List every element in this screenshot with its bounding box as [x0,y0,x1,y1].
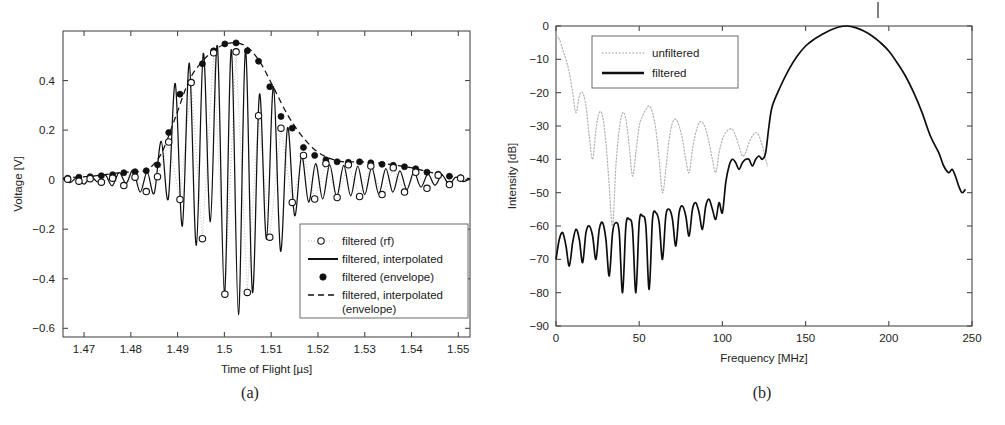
marker-rf-point [210,50,216,56]
marker-envelope-point [98,173,104,179]
legend-a-label-1: filtered, interpolated [342,253,443,265]
marker-rf-point [390,165,396,171]
panel-a-svg: 1.471.481.491.51.511.521.531.541.550.40.… [0,0,500,425]
x-tick-label: 1.55 [447,343,469,355]
panel-b-caption: (b) [753,384,772,402]
marker-envelope-point [199,61,205,67]
marker-rf-point [255,113,261,119]
marker-rf-point [278,125,284,131]
marker-envelope-point [267,84,273,90]
marker-envelope-point [177,91,183,97]
marker-envelope-point [334,159,340,165]
legend-a-label-2: filtered (envelope) [342,271,434,283]
panel-b-plot-area: 0501001502002500−10−20−30−40−50−60−70−80… [506,20,982,402]
y-tick-label: −0.4 [32,273,55,285]
legend-a-label-3: filtered, interpolated [342,289,443,301]
marker-envelope-point [379,161,385,167]
marker-envelope-point [278,113,284,119]
panel-b-xlabel: Frequency [MHz] [720,352,808,364]
marker-rf-point [76,178,82,184]
marker-envelope-point [424,169,430,175]
marker-envelope-point [121,170,127,176]
marker-envelope-point [357,159,363,165]
marker-rf-point [424,185,430,191]
panel-a-plot-area: 1.471.481.491.51.511.521.531.541.550.40.… [12,31,470,402]
marker-rf-point [188,79,194,85]
x-tick-label: 1.5 [216,343,232,355]
panel-a-caption: (a) [241,384,259,402]
marker-rf-point [166,139,172,145]
marker-rf-point [267,234,273,240]
marker-rf-point [244,289,250,295]
marker-rf-point [368,163,374,169]
marker-rf-point [334,194,340,200]
y-tick-label: −20 [529,87,549,99]
marker-rf-point [401,189,407,195]
legend-a-label-4: (envelope) [342,303,397,315]
panel-a-ylabel: Voltage [V] [12,156,24,212]
panel-b-svg: 0501001502002500−10−20−30−40−50−60−70−80… [500,0,1005,425]
marker-rf-point [222,291,228,297]
marker-rf-point [311,196,317,202]
marker-envelope-point [155,162,161,168]
y-tick-label: 0.4 [39,75,56,87]
marker-envelope-point [312,152,318,158]
marker-rf-point [435,172,441,178]
marker-rf-point [121,182,127,188]
marker-rf-point [457,175,463,181]
y-tick-label: −10 [529,53,549,65]
x-tick-label: 1.51 [260,343,282,355]
marker-rf-point [154,173,160,179]
y-tick-label: −0.2 [32,223,55,235]
y-tick-label: −30 [529,120,549,132]
y-tick-label: 0 [49,174,55,186]
panel-a: 1.471.481.491.51.511.521.531.541.550.40.… [0,0,500,425]
y-tick-label: −80 [529,287,549,299]
marker-rf-point [64,176,70,182]
y-tick-label: −70 [529,253,549,265]
x-tick-label: 1.54 [400,343,423,355]
marker-rf-point [356,193,362,199]
x-tick-label: 1.53 [354,343,376,355]
x-tick-label: 200 [879,332,898,344]
y-tick-label: −0.6 [32,322,55,334]
marker-rf-point [132,174,138,180]
x-tick-label: 150 [796,332,815,344]
marker-envelope-point [233,40,239,46]
x-tick-label: 0 [553,332,559,344]
x-tick-label: 1.49 [166,343,188,355]
legend-a-swatch-rf-marker [318,238,324,244]
legend-a-label-0: filtered (rf) [342,235,395,247]
marker-rf-point [143,188,149,194]
marker-envelope-point [289,125,295,131]
marker-rf-point [379,191,385,197]
y-tick-label: −90 [529,320,549,332]
panel-b-legend [592,36,738,88]
marker-envelope-point [300,144,306,150]
legend-b-label-1: filtered [652,67,687,79]
x-tick-label: 1.52 [307,343,329,355]
marker-envelope-point [166,130,172,136]
marker-envelope-point [256,58,262,64]
panel-b: 0501001502002500−10−20−30−40−50−60−70−80… [500,0,1005,425]
x-tick-label: 1.47 [73,343,95,355]
x-tick-label: 250 [962,332,981,344]
panel-a-xlabel: Time of Flight [µs] [221,363,312,375]
marker-envelope-point [143,168,149,174]
marker-rf-point [323,160,329,166]
y-tick-label: −40 [529,153,549,165]
y-tick-label: −50 [529,187,549,199]
marker-envelope-point [222,41,228,47]
x-tick-label: 50 [633,332,646,344]
y-tick-label: 0.2 [39,124,55,136]
marker-envelope-point [446,173,452,179]
marker-rf-point [345,162,351,168]
marker-rf-point [109,175,115,181]
marker-envelope-point [244,48,250,54]
y-tick-label: −60 [529,220,549,232]
marker-rf-point [199,235,205,241]
series-filtered-interpolated-envelope [63,43,470,179]
marker-rf-point [446,181,452,187]
y-tick-label: 0 [543,20,549,32]
marker-rf-point [300,152,306,158]
